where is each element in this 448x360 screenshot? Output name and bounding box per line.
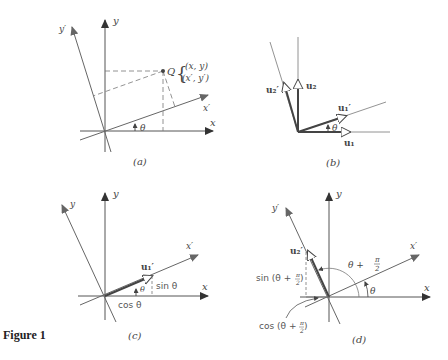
pi-label: π <box>374 256 380 264</box>
angle-label: θ <box>140 285 145 294</box>
caption-c: (c) <box>128 330 142 341</box>
u2-prime-label: u₂′ <box>290 246 303 256</box>
u1-prime-vector <box>105 276 152 296</box>
u1-prime-vector <box>298 116 346 132</box>
u1-prime-label: u₁′ <box>338 103 351 113</box>
panel-a: θ x y x′ y′ Q { (x, y) (x′, y′) (a) <box>58 15 216 167</box>
x-axis-label: x <box>202 281 208 292</box>
angle-sum-label: θ + <box>348 260 364 270</box>
x-axis-label: x <box>424 282 430 293</box>
coords-original: (x, y) <box>185 61 208 71</box>
y-prime-label: y′ <box>58 24 66 34</box>
angle-label: θ <box>140 123 146 133</box>
panel-d: θ θ + π 2 sin (θ + π 2 ) cos (θ + π 2 ) … <box>256 188 430 345</box>
angle-arc-icon <box>365 282 368 297</box>
panel-b: θ u₁ u₂ u₁′ u₂′ (b) <box>266 37 390 168</box>
dashed-projection-y-prime <box>93 71 163 96</box>
x-axis-label: x <box>210 117 216 128</box>
u2-prime-label: u₂′ <box>266 85 279 95</box>
angle-label: θ <box>370 286 376 296</box>
x-prime-axis <box>80 95 208 140</box>
point-q-label: Q <box>167 66 175 77</box>
u2-prime-vector <box>308 251 329 297</box>
caption-d: (d) <box>352 334 366 345</box>
y-prime-axis <box>62 205 116 322</box>
figure-title: Figure 1 <box>3 328 46 342</box>
two-label: 2 <box>374 265 380 273</box>
x-prime-label: x′ <box>186 241 193 251</box>
coords-rotated: (x′, y′) <box>182 73 209 83</box>
u2-label: u₂ <box>306 81 317 91</box>
caption-b: (b) <box>326 157 340 168</box>
u1-prime-label: u₁′ <box>141 262 154 272</box>
cos-pointer-arrow-icon <box>286 298 318 318</box>
y-prime-label: y <box>69 199 76 209</box>
cos-paren: ) <box>304 321 308 331</box>
y-axis-label: y <box>335 188 342 199</box>
cos-label: cos θ <box>118 300 142 310</box>
sin-label: sin (θ + <box>256 273 291 283</box>
u1-label: u₁ <box>344 138 355 148</box>
rotation-figure: θ x y x′ y′ Q { (x, y) (x′, y′) (a) θ u₁… <box>0 0 448 360</box>
sin-paren: ) <box>300 273 304 283</box>
y-axis-label: y <box>112 15 119 26</box>
x-prime-label: x′ <box>410 241 417 251</box>
cos-label: cos (θ + <box>259 321 296 331</box>
panel-c: θ sin θ cos θ u₁′ x y x′ y (c) <box>62 188 208 341</box>
sin-label: sin θ <box>156 281 178 291</box>
angle-label: θ <box>332 123 338 133</box>
x-prime-axis <box>80 255 198 305</box>
point-q <box>161 69 165 73</box>
x-prime-label: x′ <box>203 103 210 113</box>
y-prime-label: y′ <box>271 203 279 213</box>
y-axis-label: y <box>112 188 119 199</box>
caption-a: (a) <box>133 156 147 167</box>
u2-prime-vector <box>284 83 298 132</box>
